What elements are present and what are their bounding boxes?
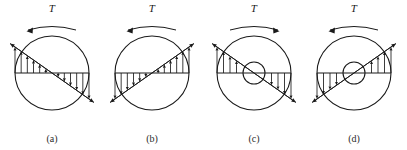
torque-arrowhead-c bbox=[273, 27, 280, 33]
torque-symbol-a: T bbox=[2, 2, 102, 14]
torque-arc-b bbox=[128, 27, 176, 31]
stress-diagonal-c-left-shaft bbox=[216, 46, 296, 102]
stress-diagonal-a-left-head bbox=[10, 43, 15, 47]
figure-a-drawing bbox=[2, 0, 102, 150]
caption-b: (b) bbox=[102, 133, 202, 144]
torsion-stress-figure-panel: T(a)T(b)T(c)T(d) bbox=[0, 0, 407, 150]
caption-a: (a) bbox=[2, 133, 102, 144]
stress-diagonal-a-left-shaft bbox=[14, 46, 94, 102]
figure-c-drawing bbox=[204, 0, 304, 150]
stress-diagonal-b-left-shaft bbox=[114, 43, 194, 99]
torque-symbol-d: T bbox=[304, 2, 404, 14]
figure-d-drawing bbox=[304, 0, 404, 150]
caption-d: (d) bbox=[304, 133, 404, 144]
figure-a: T(a) bbox=[2, 0, 102, 150]
torque-arc-c bbox=[230, 27, 278, 31]
torque-arrowhead-b bbox=[127, 27, 134, 33]
figure-d: T(d) bbox=[304, 0, 404, 150]
torque-symbol-c: T bbox=[204, 2, 304, 14]
stress-diagonal-c-left-head bbox=[212, 43, 217, 47]
figure-b: T(b) bbox=[102, 0, 202, 150]
torque-arrowhead-a bbox=[27, 27, 34, 33]
torque-symbol-b: T bbox=[102, 2, 202, 14]
stress-diagonal-d-left-head bbox=[312, 98, 317, 102]
stress-diagonal-b-left-head bbox=[110, 98, 115, 102]
torque-arc-a bbox=[28, 27, 76, 31]
figure-c: T(c) bbox=[204, 0, 304, 150]
figure-b-drawing bbox=[102, 0, 202, 150]
stress-diagonal-d-left-shaft bbox=[316, 43, 396, 99]
torque-arrowhead-d bbox=[329, 27, 336, 33]
caption-c: (c) bbox=[204, 133, 304, 144]
torque-arc-d bbox=[330, 27, 378, 31]
